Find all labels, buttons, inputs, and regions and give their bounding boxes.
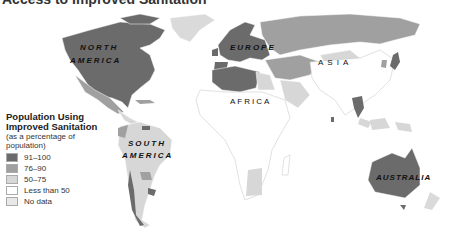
legend: Population Using Improved Sanitation (as… — [6, 112, 116, 207]
label-australia: AUSTRALIA — [376, 173, 431, 182]
russia — [260, 14, 420, 55]
legend-swatch — [6, 186, 18, 195]
legend-item: 50–75 — [6, 174, 116, 185]
legend-item: Less than 50 — [6, 185, 116, 196]
legend-item: 91–100 — [6, 152, 116, 163]
legend-swatch — [6, 197, 18, 206]
label-south-america-2: AMERICA — [122, 151, 173, 160]
legend-swatch — [6, 175, 18, 184]
africa-north — [212, 66, 260, 92]
legend-subtitle-2: population) — [6, 141, 116, 150]
label-north-america-2: AMERICA — [70, 56, 121, 65]
legend-item: No data — [6, 196, 116, 207]
label-south-america-1: SOUTH — [128, 139, 166, 148]
label-europe: EUROPE — [230, 43, 276, 52]
north-america — [62, 22, 165, 108]
label-africa: AFRICA — [230, 97, 271, 106]
label-north-america-1: NORTH — [80, 43, 118, 52]
legend-label: 91–100 — [24, 153, 51, 162]
legend-label: 76–90 — [24, 164, 46, 173]
legend-label: Less than 50 — [24, 186, 70, 195]
legend-label: 50–75 — [24, 175, 46, 184]
africa — [196, 90, 290, 200]
legend-label: No data — [24, 197, 52, 206]
legend-item: 76–90 — [6, 163, 116, 174]
legend-subtitle-1: (as a percentage of — [6, 132, 116, 141]
legend-title-2: Improved Sanitation — [6, 122, 116, 132]
legend-swatch — [6, 164, 18, 173]
label-asia: ASIA — [318, 58, 352, 67]
legend-swatch — [6, 153, 18, 162]
greenland — [170, 14, 215, 42]
